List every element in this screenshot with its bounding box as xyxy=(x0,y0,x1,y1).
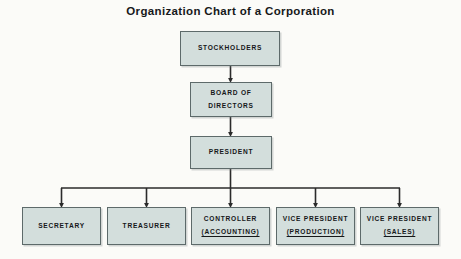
node-president[interactable]: PRESIDENT xyxy=(190,136,272,169)
node-label-line1: BOARD OF xyxy=(210,90,251,97)
node-label-line1: VICE PRESIDENT xyxy=(367,216,432,223)
node-label-line1: STOCKHOLDERS xyxy=(198,45,262,52)
node-vice-president-sales[interactable]: VICE PRESIDENT (SALES) xyxy=(360,207,439,245)
node-treasurer[interactable]: TREASURER xyxy=(107,207,186,245)
node-vice-president-production[interactable]: VICE PRESIDENT (PRODUCTION) xyxy=(276,207,355,245)
node-label-line2: DIRECTORS xyxy=(208,103,253,110)
node-board-of-directors[interactable]: BOARD OF DIRECTORS xyxy=(190,82,272,117)
node-secretary[interactable]: SECRETARY xyxy=(22,207,101,245)
node-label-line1: CONTROLLER xyxy=(204,216,257,223)
node-label-line1: PRESIDENT xyxy=(209,149,254,156)
node-label-line1: TREASURER xyxy=(123,223,171,230)
node-label-line1: SECRETARY xyxy=(38,223,85,230)
page-title: Organization Chart of a Corporation xyxy=(0,5,461,17)
organization-chart: Organization Chart of a Corporation STOC… xyxy=(0,0,461,259)
node-stockholders[interactable]: STOCKHOLDERS xyxy=(180,31,280,66)
node-controller[interactable]: CONTROLLER (ACCOUNTING) xyxy=(191,207,270,245)
node-label-line1: VICE PRESIDENT xyxy=(283,216,348,223)
node-label-line2: (ACCOUNTING) xyxy=(201,229,259,236)
node-label-line2: (SALES) xyxy=(384,229,416,236)
node-label-line2: (PRODUCTION) xyxy=(287,229,345,236)
